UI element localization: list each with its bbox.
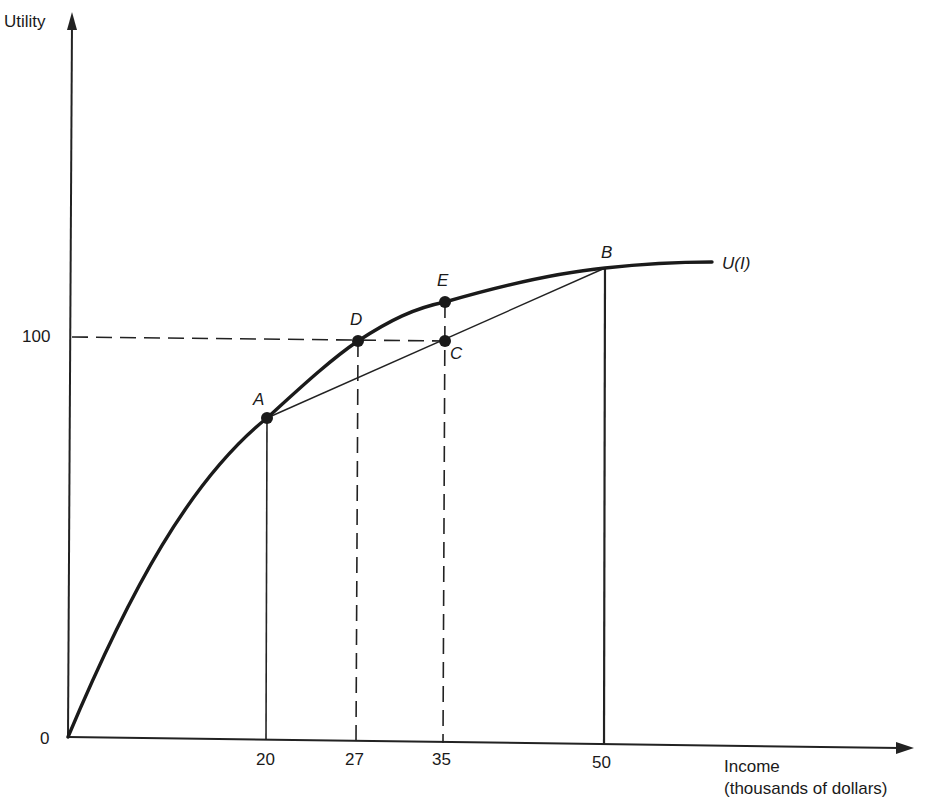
dashed-line-y100 (72, 337, 445, 341)
vertical-line-x50 (604, 268, 605, 745)
dashed-line-x35 (443, 302, 445, 743)
point-label-a: A (253, 390, 264, 410)
point-a (261, 412, 273, 424)
y-axis-arrow-icon (67, 12, 77, 30)
origin-label: 0 (40, 729, 49, 749)
y-axis-label: Utility (4, 12, 46, 32)
x-tick-35: 35 (432, 750, 451, 770)
x-axis-label-line1: Income (724, 757, 780, 777)
point-label-e: E (437, 271, 448, 291)
y-tick-100: 100 (22, 327, 50, 347)
x-axis-arrow-icon (896, 742, 914, 754)
point-label-b: B (601, 243, 612, 263)
chord-ab (267, 268, 605, 418)
y-axis (68, 22, 72, 737)
utility-chart (0, 0, 928, 803)
dashed-line-x27 (356, 341, 358, 742)
x-tick-20: 20 (256, 750, 275, 770)
x-tick-50: 50 (592, 753, 611, 773)
curve-label: U(I) (722, 254, 750, 274)
vertical-line-x20 (266, 418, 267, 740)
utility-curve (68, 262, 712, 737)
x-axis (68, 737, 900, 748)
point-label-d: D (350, 310, 362, 330)
x-axis-label-line2: (thousands of dollars) (724, 779, 887, 799)
point-label-c: C (450, 344, 462, 364)
point-e (439, 296, 451, 308)
x-tick-27: 27 (345, 750, 364, 770)
point-d (352, 335, 364, 347)
